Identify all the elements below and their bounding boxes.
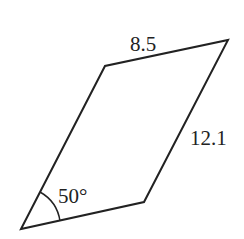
top-side-label: 8.5 <box>130 32 156 56</box>
right-side-label: 12.1 <box>190 126 227 150</box>
angle-label: 50° <box>58 184 87 208</box>
diagram-canvas: 8.5 12.1 50° <box>0 0 244 239</box>
parallelogram-diagram: 8.5 12.1 50° <box>0 0 244 239</box>
angle-arc <box>40 192 60 221</box>
